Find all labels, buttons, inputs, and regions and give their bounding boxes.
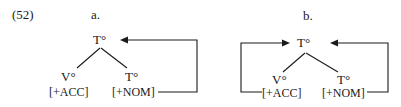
diagram-label: b. xyxy=(303,9,313,23)
arrowhead-b-left xyxy=(282,40,290,47)
arrowhead-a xyxy=(120,37,128,44)
diagram-label: a. xyxy=(91,8,100,22)
left-feature: [+ACC] xyxy=(49,85,88,99)
right-head-node: T° xyxy=(337,73,350,87)
right-feature: [+NOM] xyxy=(322,86,365,100)
root-node: T° xyxy=(93,33,106,47)
arrowhead-b-right xyxy=(330,40,338,47)
left-feature: [+ACC] xyxy=(262,86,301,100)
left-head-node: V° xyxy=(61,70,76,84)
example-number: (52) xyxy=(12,8,34,22)
right-head-node: T° xyxy=(125,70,138,84)
left-head-node: V° xyxy=(272,73,287,87)
root-node: T° xyxy=(297,36,310,50)
right-feature: [+NOM] xyxy=(112,85,155,99)
